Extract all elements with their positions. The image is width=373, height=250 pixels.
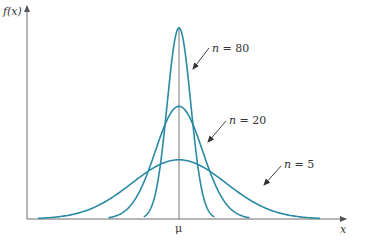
label-n80: n = 80 (212, 42, 249, 55)
sampling-distribution-chart: f(x) x μ n = 80 n = 20 n = 5 (0, 0, 373, 250)
label-n20: n = 20 (229, 114, 266, 127)
mu-tick-label: μ (175, 222, 182, 235)
arrow-n80 (193, 48, 209, 69)
arrow-n20 (208, 121, 226, 142)
y-axis-label: f(x) (2, 5, 22, 18)
arrow-n5 (264, 166, 281, 185)
label-n5: n = 5 (284, 158, 314, 171)
x-axis-label: x (340, 223, 347, 236)
